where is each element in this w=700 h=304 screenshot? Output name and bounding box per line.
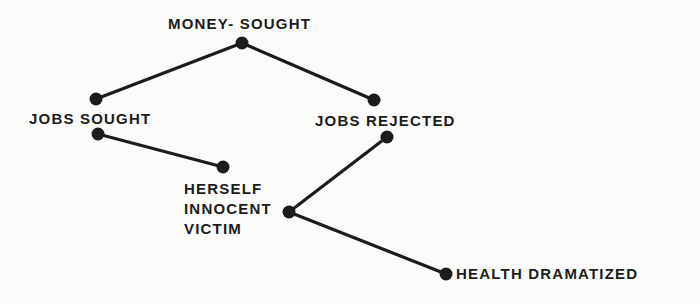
- edge-jobs-rejected-to-victim: [289, 137, 387, 212]
- node-label-line-victim: VICTIM: [184, 219, 272, 239]
- node-label-line-herself: HERSELF: [184, 179, 272, 199]
- node-dot-money-sought: [236, 37, 249, 50]
- node-label-jobs-rejected: JOBS REJECTED: [315, 112, 456, 130]
- node-dot-jobs-rejected-top: [368, 94, 381, 107]
- node-label-money-sought: MONEY- SOUGHT: [168, 15, 311, 33]
- edge-jobs-sought-to-herself: [98, 134, 223, 167]
- edge-money-to-jobs-rejected: [242, 43, 374, 100]
- node-dot-jobs-sought-top: [90, 93, 103, 106]
- node-label-line-innocent: INNOCENT: [184, 199, 272, 219]
- node-label-herself-innocent-victim: HERSELF INNOCENT VICTIM: [184, 179, 272, 239]
- diagram-edges-layer: [0, 0, 700, 304]
- node-label-health-dramatized: HEALTH DRAMATIZED: [456, 265, 638, 283]
- node-dot-herself: [217, 161, 230, 174]
- concept-tree-diagram: MONEY- SOUGHT JOBS SOUGHT JOBS REJECTED …: [0, 0, 700, 304]
- node-label-jobs-sought: JOBS SOUGHT: [29, 110, 151, 128]
- node-dot-jobs-sought-bottom: [92, 128, 105, 141]
- edge-money-to-jobs-sought: [96, 43, 242, 99]
- node-dot-innocent-victim: [283, 206, 296, 219]
- node-dot-health-dramatized: [440, 268, 453, 281]
- node-dot-jobs-rejected-bottom: [381, 131, 394, 144]
- edge-victim-to-health: [289, 212, 446, 274]
